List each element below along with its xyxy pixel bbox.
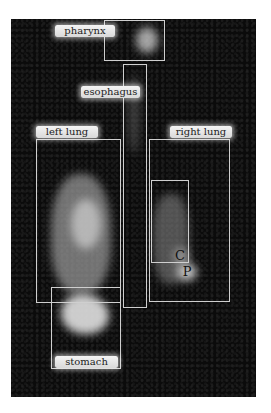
marker-p: P <box>181 265 193 279</box>
marker-c: C <box>174 249 186 263</box>
pharynx-label: pharynx <box>55 25 115 37</box>
stomach-label: stomach <box>55 356 118 368</box>
right-lung-label: right lung <box>170 126 232 138</box>
esophagus-roi-box <box>123 64 147 308</box>
esophagus-label: esophagus <box>81 86 140 98</box>
left-lung-label: left lung <box>36 126 98 138</box>
left-lung-roi-box <box>36 139 121 303</box>
